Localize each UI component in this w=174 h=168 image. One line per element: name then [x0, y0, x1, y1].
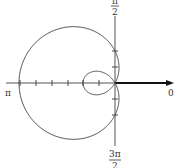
- polar-plot: π 0 π 2 3π 2: [0, 0, 174, 168]
- label-3pi-half-den: 2: [112, 161, 118, 168]
- label-pi: π: [5, 88, 11, 98]
- label-zero: 0: [168, 88, 174, 98]
- label-pi-half-num: π: [112, 0, 118, 6]
- arrow-head-icon: [166, 80, 174, 86]
- label-3pi-half-num: 3π: [109, 149, 121, 159]
- label-pi-half-den: 2: [112, 7, 118, 17]
